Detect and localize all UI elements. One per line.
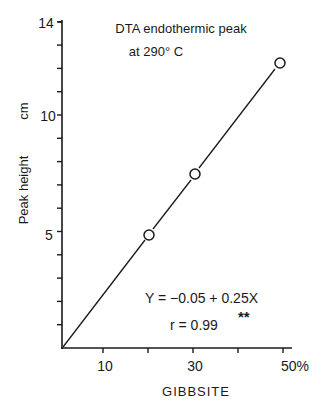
x-tick-label-10: 10	[97, 358, 113, 374]
data-point-20	[144, 230, 154, 240]
correlation-label: r = 0.99	[170, 317, 218, 333]
chart: 14 10 5 10 30 50% GIBBSITE Peak height c…	[0, 0, 321, 416]
y-tick-label-10: 10	[40, 108, 56, 124]
significance-marker: **	[238, 308, 250, 325]
x-axis-label: GIBBSITE	[162, 384, 230, 399]
data-point-50	[275, 58, 285, 68]
x-tick-label-50: 50%	[281, 358, 309, 374]
chart-subtitle: at 290° C	[129, 44, 183, 59]
y-tick-label-14: 14	[38, 15, 54, 31]
chart-title: DTA endothermic peak	[115, 21, 247, 36]
y-tick-label-5: 5	[45, 227, 53, 243]
y-axis-unit: cm	[16, 102, 31, 119]
regression-equation: Y = −0.05 + 0.25X	[145, 290, 259, 306]
y-axis-label: Peak height	[16, 155, 31, 224]
data-point-30	[190, 169, 200, 179]
x-tick-label-30: 30	[187, 358, 203, 374]
